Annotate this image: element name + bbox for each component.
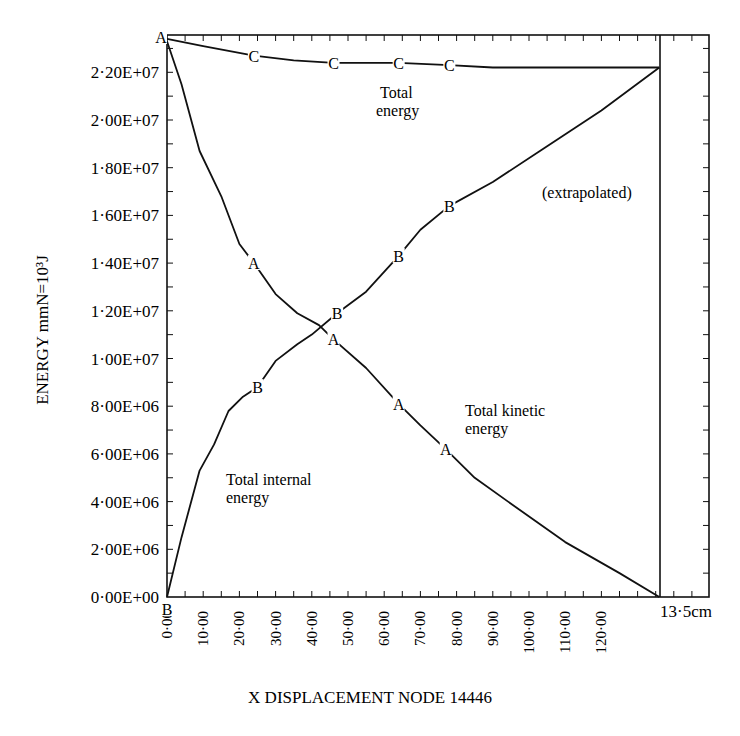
series-marker-A: A xyxy=(328,331,340,348)
y-axis-title: ENERGY mmN=10³J xyxy=(33,255,52,405)
y-tick-label: 8·00E+06 xyxy=(91,397,159,416)
x-tick-label: 30·00 xyxy=(268,611,284,646)
series-marker-C: C xyxy=(249,48,260,65)
y-tick-label: 0·00E+00 xyxy=(91,588,159,607)
y-tick-label: 1·80E+07 xyxy=(91,159,160,178)
plot-border xyxy=(167,35,709,597)
x-tick-label: 70·00 xyxy=(412,611,428,646)
x-tick-label: 100·00 xyxy=(521,611,537,654)
y-tick-label: 1·20E+07 xyxy=(91,302,160,321)
x-tick-label: 120·00 xyxy=(593,611,609,654)
series-marker-A: A xyxy=(440,441,452,458)
series-marker-A: A xyxy=(393,396,405,413)
y-tick-label: 4·00E+06 xyxy=(91,493,159,512)
x-axis-title: X DISPLACEMENT NODE 14446 xyxy=(248,688,492,707)
series-marker-B: B xyxy=(444,198,455,215)
y-tick-label: 1·40E+07 xyxy=(91,254,160,273)
series-marker-B: B xyxy=(252,379,263,396)
y-tick-label: 1·00E+07 xyxy=(91,350,160,369)
y-tick-label: 1·60E+07 xyxy=(91,206,160,225)
x-tick-label: 90·00 xyxy=(485,611,501,646)
series-marker-C: C xyxy=(393,55,404,72)
x-tick-label: 60·00 xyxy=(376,611,392,646)
series-marker-A: A xyxy=(155,29,167,46)
annotation-total-internal: Total internalenergy xyxy=(226,471,312,507)
annotations: Totalenergy(extrapolated)Total kineticen… xyxy=(226,84,632,507)
y-axis: 0·00E+002·00E+064·00E+066·00E+068·00E+06… xyxy=(91,63,160,607)
x-axis: 0·0010·0020·0030·0040·0050·0060·0070·008… xyxy=(159,611,609,654)
x-tick-label: 40·00 xyxy=(304,611,320,646)
x-tick-label: 20·00 xyxy=(231,611,247,646)
series-marker-C: C xyxy=(328,55,339,72)
series-marker-B: B xyxy=(332,305,343,322)
x-end-label: 13·5cm xyxy=(660,602,712,621)
annotation-total-energy: Totalenergy xyxy=(376,84,419,120)
series-marker-A: A xyxy=(248,255,260,272)
annotation-extrapolated: (extrapolated) xyxy=(542,184,632,202)
y-tick-label: 2·00E+06 xyxy=(91,540,159,559)
x-tick-label: 10·00 xyxy=(195,611,211,646)
series-marker-B: B xyxy=(162,601,173,618)
series-line-C xyxy=(167,39,659,68)
x-tick-label: 50·00 xyxy=(340,611,356,646)
x-tick-label: 80·00 xyxy=(449,611,465,646)
plot-frame xyxy=(167,35,709,597)
y-tick-label: 2·00E+07 xyxy=(91,111,160,130)
y-tick-label: 2·20E+07 xyxy=(91,63,160,82)
series-marker-B: B xyxy=(393,248,404,265)
energy-chart: 0·00E+002·00E+064·00E+066·00E+068·00E+06… xyxy=(0,0,740,736)
series-marker-C: C xyxy=(444,57,455,74)
annotation-total-kinetic: Total kineticenergy xyxy=(465,402,545,438)
x-tick-label: 110·00 xyxy=(557,611,573,653)
series-line-A xyxy=(167,41,659,597)
series-line-B xyxy=(167,68,659,598)
y-tick-label: 6·00E+06 xyxy=(91,445,159,464)
